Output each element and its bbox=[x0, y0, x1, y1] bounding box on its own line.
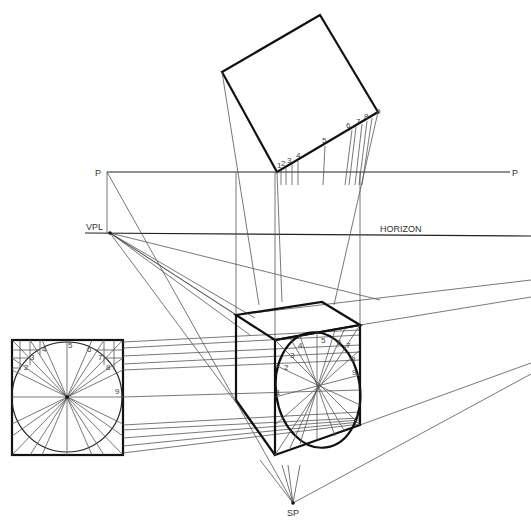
sp-point bbox=[291, 501, 295, 505]
height-projectors bbox=[123, 330, 360, 453]
elevation-point-labels: 2 3 4 5 6 7 8 9 bbox=[24, 341, 120, 396]
svg-text:2: 2 bbox=[284, 363, 289, 372]
svg-text:7: 7 bbox=[356, 117, 361, 126]
svg-text:7: 7 bbox=[98, 353, 103, 362]
svg-text:8: 8 bbox=[364, 112, 369, 121]
svg-text:5: 5 bbox=[68, 341, 73, 350]
svg-text:8: 8 bbox=[106, 363, 111, 372]
svg-text:5: 5 bbox=[322, 136, 327, 145]
svg-text:6: 6 bbox=[87, 345, 92, 354]
svg-text:3: 3 bbox=[30, 353, 35, 362]
svg-text:6: 6 bbox=[346, 121, 351, 130]
elevation-center-point bbox=[65, 395, 69, 399]
svg-text:2: 2 bbox=[24, 363, 29, 372]
svg-text:2: 2 bbox=[281, 159, 286, 168]
label-p-right: P bbox=[512, 168, 518, 178]
svg-text:3: 3 bbox=[287, 156, 292, 165]
svg-text:4: 4 bbox=[298, 341, 303, 350]
label-p-left: P bbox=[95, 168, 101, 178]
svg-text:9: 9 bbox=[115, 387, 120, 396]
plan-view-square bbox=[222, 15, 378, 172]
label-vpl: VPL bbox=[86, 222, 103, 232]
svg-text:6: 6 bbox=[337, 338, 342, 347]
svg-text:4: 4 bbox=[42, 345, 47, 354]
perspective-cube bbox=[236, 302, 360, 455]
plan-projectors bbox=[281, 118, 372, 185]
svg-text:4: 4 bbox=[296, 151, 301, 160]
perspective-diagram: P P VPL HORIZON SP 1 2 3 4 5 6 7 8 9 2 3… bbox=[0, 0, 531, 530]
svg-text:9: 9 bbox=[376, 107, 381, 116]
svg-text:5: 5 bbox=[321, 336, 326, 345]
svg-text:8: 8 bbox=[351, 355, 356, 364]
label-sp: SP bbox=[287, 508, 299, 518]
vpl-point bbox=[108, 231, 112, 235]
label-horizon: HORIZON bbox=[380, 224, 422, 234]
svg-text:3: 3 bbox=[290, 351, 295, 360]
svg-text:9: 9 bbox=[352, 368, 357, 377]
svg-text:1: 1 bbox=[276, 388, 281, 397]
station-point-rays bbox=[260, 460, 300, 503]
svg-text:7: 7 bbox=[346, 341, 351, 350]
horizon-line bbox=[85, 233, 531, 236]
